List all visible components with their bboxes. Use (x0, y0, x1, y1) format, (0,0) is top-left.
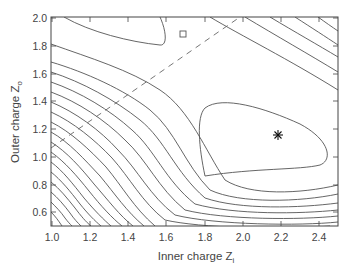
svg-text:1.8: 1.8 (198, 231, 213, 243)
x-axis-label: Inner charge Zi (158, 250, 235, 265)
contour-chart: 1.0 1.2 1.4 1.6 1.8 2.0 2.2 2.4 0.6 0.8 … (0, 0, 353, 270)
svg-text:1.6: 1.6 (32, 68, 47, 80)
svg-text:1.0: 1.0 (32, 151, 47, 163)
svg-text:0.6: 0.6 (32, 206, 47, 218)
svg-text:1.8: 1.8 (32, 40, 47, 52)
y-tick-labels: 0.6 0.8 1.0 1.2 1.4 1.6 1.8 2.0 (32, 12, 47, 218)
svg-text:1.0: 1.0 (45, 231, 60, 243)
svg-text:1.2: 1.2 (83, 231, 98, 243)
svg-text:0.8: 0.8 (32, 179, 47, 191)
square-marker (180, 31, 186, 37)
svg-text:1.4: 1.4 (32, 95, 47, 107)
x-tick-labels: 1.0 1.2 1.4 1.6 1.8 2.0 2.2 2.4 (45, 231, 327, 243)
svg-text:1.2: 1.2 (32, 123, 47, 135)
minimum-asterisk-icon (273, 130, 283, 140)
svg-text:2.2: 2.2 (274, 231, 289, 243)
svg-text:2.4: 2.4 (312, 231, 327, 243)
dashed-path (51, 17, 240, 148)
svg-text:2.0: 2.0 (236, 231, 251, 243)
y-ticks (51, 18, 338, 212)
svg-text:1.6: 1.6 (159, 231, 174, 243)
y-axis-label: Outer charge Zo (9, 81, 24, 163)
svg-text:2.0: 2.0 (32, 12, 47, 24)
svg-text:1.4: 1.4 (121, 231, 136, 243)
contour-lines (51, 17, 338, 228)
